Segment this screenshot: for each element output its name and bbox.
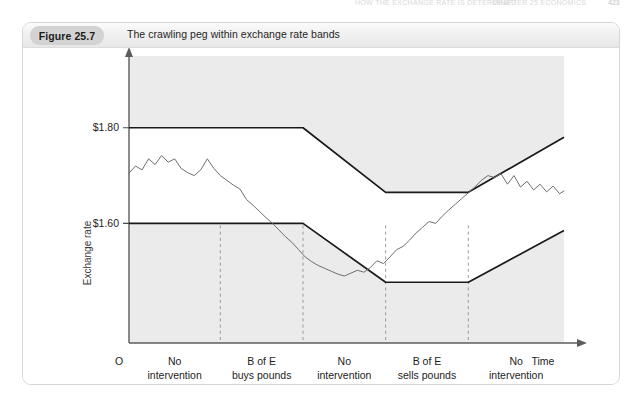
- y-axis-ticks: $1.80$1.60: [93, 121, 129, 229]
- y-tick-label: $1.80: [93, 121, 119, 133]
- phase-label: intervention: [317, 369, 371, 381]
- phase-label: B of E: [413, 355, 442, 367]
- phase-label: intervention: [489, 369, 543, 381]
- phase-label: No: [338, 355, 352, 367]
- x-axis-label: Time: [532, 355, 555, 367]
- phase-label: B of E: [247, 355, 276, 367]
- phase-label-group: NointerventionB of Ebuys poundsNointerve…: [148, 355, 544, 381]
- phase-label: intervention: [148, 369, 202, 381]
- running-head: HOW THE EXCHANGE RATE IS DETERMINED CHAP…: [0, 0, 642, 12]
- chart-plot-host: $1.80$1.60 Exchange rate O Time Nointerv…: [23, 48, 620, 385]
- figure-title: The crawling peg within exchange rate ba…: [127, 28, 340, 40]
- phase-label: buys pounds: [232, 369, 292, 381]
- y-axis-arrow-icon: [125, 48, 133, 57]
- exchange-rate-chart: $1.80$1.60 Exchange rate O Time Nointerv…: [23, 48, 620, 385]
- phase-label: No: [509, 355, 523, 367]
- figure-panel: Figure 25.7 The crawling peg within exch…: [22, 22, 620, 385]
- x-axis-arrow-icon: [577, 339, 587, 347]
- phase-label: sells pounds: [398, 369, 456, 381]
- figure-number-badge: Figure 25.7: [30, 26, 104, 45]
- running-head-page-number: 423: [608, 0, 620, 6]
- y-tick-label: $1.60: [93, 217, 119, 229]
- running-head-right: CHAPTER 25 ECONOMICS: [492, 0, 586, 6]
- figure-caption-bar: Figure 25.7 The crawling peg within exch…: [23, 23, 619, 48]
- origin-label: O: [115, 355, 123, 367]
- y-axis-label: Exchange rate: [82, 220, 93, 285]
- phase-label: No: [168, 355, 182, 367]
